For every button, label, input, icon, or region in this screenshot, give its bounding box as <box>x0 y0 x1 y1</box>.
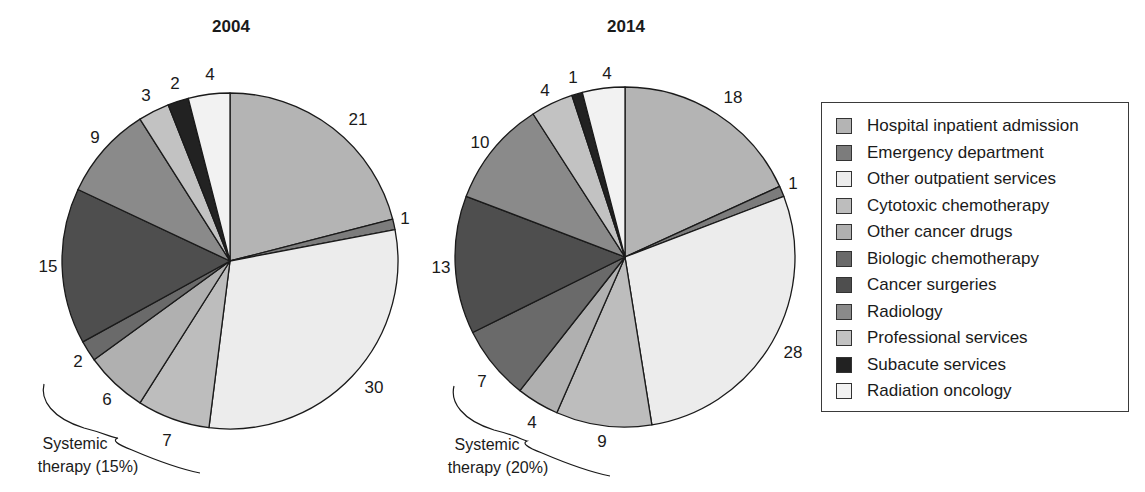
legend-label: Subacute services <box>867 355 1006 375</box>
legend-item-subacute-services: Subacute services <box>836 352 1128 379</box>
legend-swatch <box>836 251 852 267</box>
slice-value-label: 2 <box>73 352 82 371</box>
legend-item-professional-services: Professional services <box>836 325 1128 352</box>
legend-label: Other outpatient services <box>867 169 1056 189</box>
legend-swatch <box>836 118 852 134</box>
slice-value-label: 9 <box>597 432 606 451</box>
slice-value-label: 3 <box>141 86 150 105</box>
legend-label: Cytotoxic chemotherapy <box>867 196 1049 216</box>
slice-value-label: 1 <box>568 68 577 87</box>
legend-swatch <box>836 357 852 373</box>
slice-value-label: 9 <box>90 128 99 147</box>
systemic-therapy-label: therapy (20%) <box>448 459 549 476</box>
pie-2004: 200421130762159324Systemictherapy (15%) <box>38 17 410 475</box>
legend-swatch <box>836 145 852 161</box>
legend-label: Radiology <box>867 302 943 322</box>
slice-value-label: 15 <box>39 257 58 276</box>
pie-slices <box>455 87 795 427</box>
slice-value-label: 4 <box>527 413 536 432</box>
slice-value-label: 4 <box>205 65 214 84</box>
systemic-therapy-label: therapy (15%) <box>38 458 139 475</box>
legend-item-cancer-surgeries: Cancer surgeries <box>836 272 1128 299</box>
legend-item-hospital-inpatient: Hospital inpatient admission <box>836 113 1128 140</box>
slice-value-label: 7 <box>162 431 171 450</box>
legend-swatch <box>836 224 852 240</box>
legend: Hospital inpatient admission Emergency d… <box>821 102 1129 412</box>
slice-value-label: 13 <box>432 258 451 277</box>
legend-item-other-outpatient: Other outpatient services <box>836 166 1128 193</box>
legend-swatch <box>836 171 852 187</box>
chart-title: 2014 <box>607 17 645 36</box>
slice-value-label: 18 <box>724 88 743 107</box>
legend-label: Professional services <box>867 328 1028 348</box>
slice-value-label: 4 <box>602 64 611 83</box>
systemic-therapy-label: Systemic <box>43 435 108 452</box>
slice-value-label: 7 <box>477 372 486 391</box>
legend-item-emergency-department: Emergency department <box>836 140 1128 167</box>
pie-slices <box>62 93 398 429</box>
legend-label: Emergency department <box>867 143 1044 163</box>
slice-value-label: 21 <box>349 110 368 129</box>
slice-value-label: 10 <box>471 133 490 152</box>
legend-label: Cancer surgeries <box>867 275 996 295</box>
legend-item-biologic-chemotherapy: Biologic chemotherapy <box>836 246 1128 273</box>
legend-item-cytotoxic-chemotherapy: Cytotoxic chemotherapy <box>836 193 1128 220</box>
legend-swatch <box>836 383 852 399</box>
legend-item-radiation-oncology: Radiation oncology <box>836 378 1128 405</box>
legend-label: Biologic chemotherapy <box>867 249 1039 269</box>
legend-swatch <box>836 277 852 293</box>
legend-item-radiology: Radiology <box>836 299 1128 326</box>
slice-value-label: 28 <box>784 343 803 362</box>
pie-2014: 2014181289471310414Systemictherapy (20%) <box>432 17 803 476</box>
pie-slice-other-outpatient-services <box>209 230 398 429</box>
legend-item-other-cancer-drugs: Other cancer drugs <box>836 219 1128 246</box>
legend-label: Other cancer drugs <box>867 222 1013 242</box>
slice-value-label: 30 <box>365 378 384 397</box>
legend-label: Radiation oncology <box>867 381 1012 401</box>
systemic-therapy-label: Systemic <box>455 436 520 453</box>
slice-value-label: 6 <box>102 390 111 409</box>
slice-value-label: 2 <box>170 74 179 93</box>
slice-value-label: 1 <box>788 174 797 193</box>
slice-value-label: 4 <box>540 81 549 100</box>
legend-label: Hospital inpatient admission <box>867 116 1079 136</box>
chart-title: 2004 <box>212 17 250 36</box>
legend-swatch <box>836 330 852 346</box>
slice-value-label: 1 <box>400 209 409 228</box>
legend-swatch <box>836 304 852 320</box>
legend-swatch <box>836 198 852 214</box>
